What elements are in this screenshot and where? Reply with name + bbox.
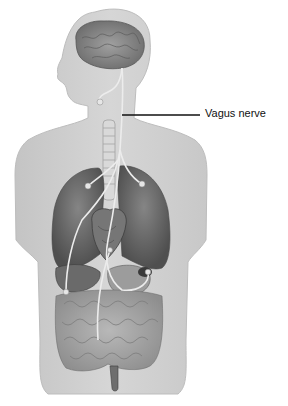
brain (76, 21, 144, 69)
vagus-nerve-label: Vagus nerve (205, 107, 266, 119)
vagus-nerve-diagram (0, 0, 288, 406)
trachea (103, 120, 115, 200)
